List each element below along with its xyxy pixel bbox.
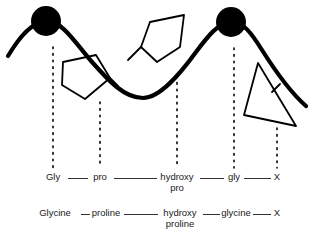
full-residue-5-label: X <box>274 207 280 218</box>
dotted-connector-group <box>53 47 277 168</box>
hydroxyproline-ring <box>141 15 184 62</box>
abbrev-residue-3-sublabel: pro <box>117 183 237 194</box>
proline-ring <box>62 55 110 99</box>
x-residue-triangle <box>244 63 296 126</box>
glycine-circle-left <box>31 6 61 36</box>
abbrev-residue-5-label: X <box>274 171 280 182</box>
abbrev-residue-5: X <box>217 172 316 183</box>
full-residue-3-sublabel: proline <box>120 219 240 230</box>
glycine-circle-right <box>216 7 246 37</box>
full-residue-5: X <box>217 208 316 219</box>
full-residue-2-label: proline <box>92 207 121 218</box>
abbrev-residue-2-label: pro <box>93 171 107 182</box>
hydroxyproline-ring-bond <box>128 47 141 60</box>
